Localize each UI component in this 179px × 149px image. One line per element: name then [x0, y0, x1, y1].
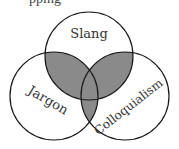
label-slang: Slang — [70, 26, 108, 41]
clipped-title: pping — [29, 0, 61, 6]
venn-diagram: pping Slang Jargon Colloquialism — [0, 0, 179, 149]
